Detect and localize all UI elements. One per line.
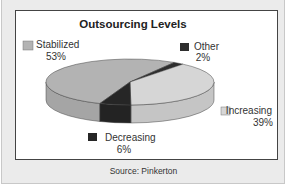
pie-chart: Outsourcing Levels Stabilized 53% Other … [0, 0, 287, 187]
label-increasing: Increasing [226, 105, 272, 116]
legend-swatch-other [180, 43, 189, 51]
label-stabilized: Stabilized [36, 39, 79, 50]
value-stabilized: 53% [46, 51, 66, 62]
label-other: Other [194, 41, 220, 52]
pie-side-decreasing [100, 103, 131, 123]
label-decreasing: Decreasing [105, 132, 156, 143]
value-other: 2% [196, 52, 211, 63]
value-decreasing: 6% [117, 144, 132, 155]
source-note: Source: Pinkerton [0, 166, 287, 176]
legend-swatch-stabilized [23, 41, 33, 50]
legend-swatch-decreasing [88, 133, 97, 141]
value-increasing: 39% [253, 117, 273, 128]
chart-title: Outsourcing Levels [79, 18, 186, 30]
